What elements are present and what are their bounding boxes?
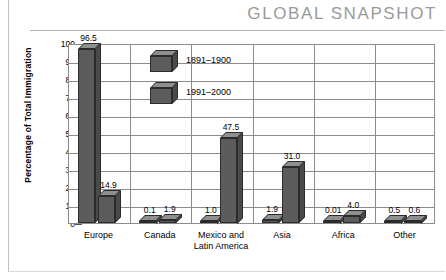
gridline xyxy=(69,135,434,136)
bar-value-label: 0.6 xyxy=(397,205,432,215)
gridline xyxy=(69,171,434,172)
bar xyxy=(343,216,360,223)
bar-value-label: 1.0 xyxy=(193,205,228,215)
bar-chart: Percentage of Total Immigration 01020304… xyxy=(0,36,446,272)
bar-value-label: 96.5 xyxy=(71,33,106,43)
header-divider xyxy=(30,30,445,31)
bar-front-face xyxy=(262,220,279,223)
y-axis-tick-mark xyxy=(75,224,82,225)
x-axis-tick-label: Mexico and Latin America xyxy=(190,230,251,252)
legend-label: 1891–1900 xyxy=(186,55,231,65)
legend-swatch-icon xyxy=(150,82,178,104)
bar xyxy=(323,221,340,224)
bar xyxy=(78,49,95,223)
bar-value-label: 47.5 xyxy=(213,122,248,132)
bar-front-face xyxy=(159,220,176,223)
bar-value-label: 4.0 xyxy=(336,200,371,210)
bar-front-face xyxy=(139,221,156,224)
legend-item: 1891–1900 xyxy=(150,46,260,78)
bar-front-face xyxy=(323,221,340,224)
bar-front-face xyxy=(78,49,95,223)
legend: 1891–1900 1991–2000 xyxy=(150,46,260,110)
gridline xyxy=(69,117,434,118)
bar-side-face xyxy=(237,132,243,224)
bar-value-label: 31.0 xyxy=(275,151,310,161)
bar xyxy=(404,221,421,224)
bar-front-face xyxy=(343,216,360,223)
figure-header: GLOBAL SNAPSHOT xyxy=(0,0,446,31)
bar-value-label: 14.9 xyxy=(91,180,126,190)
bar-value-label: 1.9 xyxy=(255,204,290,214)
bar xyxy=(262,220,279,223)
x-axis-tick-label: Asia xyxy=(252,230,313,241)
x-axis-tick-label: Africa xyxy=(313,230,374,241)
y-axis-label: Percentage of Total Immigration xyxy=(23,35,33,195)
legend-swatch-icon xyxy=(150,50,178,72)
bar-front-face xyxy=(404,221,421,224)
bar-front-face xyxy=(282,167,299,223)
bar xyxy=(384,221,401,224)
bar-value-label: 1.9 xyxy=(152,204,187,214)
bar-front-face xyxy=(200,221,217,224)
global-snapshot-figure: GLOBAL SNAPSHOT Percentage of Total Immi… xyxy=(0,0,446,280)
bar xyxy=(200,221,217,224)
x-axis-tick-label: Europe xyxy=(68,230,129,241)
bar-side-face xyxy=(299,161,305,223)
x-axis-tick-label: Canada xyxy=(129,230,190,241)
gridline xyxy=(69,153,434,154)
legend-item: 1991–2000 xyxy=(150,78,260,110)
bar-front-face xyxy=(384,221,401,224)
group-separator xyxy=(375,45,376,223)
x-axis-tick-label: Other xyxy=(374,230,435,241)
group-separator xyxy=(130,45,131,223)
bar xyxy=(139,221,156,224)
group-separator xyxy=(314,45,315,223)
bar xyxy=(282,167,299,223)
bar xyxy=(98,196,115,223)
bar-side-face xyxy=(115,190,121,223)
bar xyxy=(159,220,176,223)
page-title: GLOBAL SNAPSHOT xyxy=(247,4,437,24)
legend-label: 1991–2000 xyxy=(186,87,231,97)
bar-front-face xyxy=(98,196,115,223)
